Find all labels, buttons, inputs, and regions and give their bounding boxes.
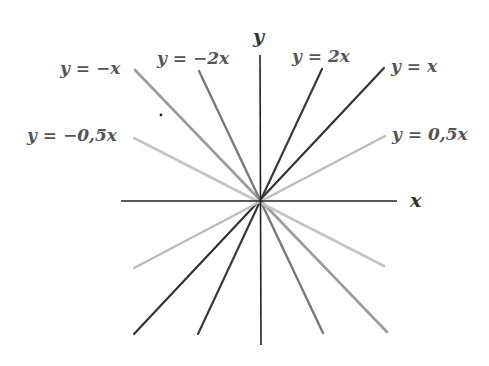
stray-dot bbox=[160, 114, 163, 117]
label-y-eq-neg-2x: y = −2x bbox=[156, 48, 230, 68]
y-axis-label: y bbox=[252, 25, 266, 47]
x-axis-label: x bbox=[409, 189, 422, 211]
label-y-eq-0-5x: y = 0,5x bbox=[391, 124, 469, 144]
label-y-eq-2x: y = 2x bbox=[291, 46, 351, 66]
line-labels: y = xy = 2xy = 0,5xy = −xy = −2xy = −0,5… bbox=[26, 46, 469, 145]
label-y-eq-neg-0-5x: y = −0,5x bbox=[26, 125, 118, 145]
linear-functions-diagram: x y y = xy = 2xy = 0,5xy = −xy = −2xy = … bbox=[0, 0, 489, 366]
label-y-eq-neg-x: y = −x bbox=[59, 58, 121, 78]
label-y-eq-x: y = x bbox=[390, 56, 438, 76]
y-axis bbox=[260, 55, 261, 345]
